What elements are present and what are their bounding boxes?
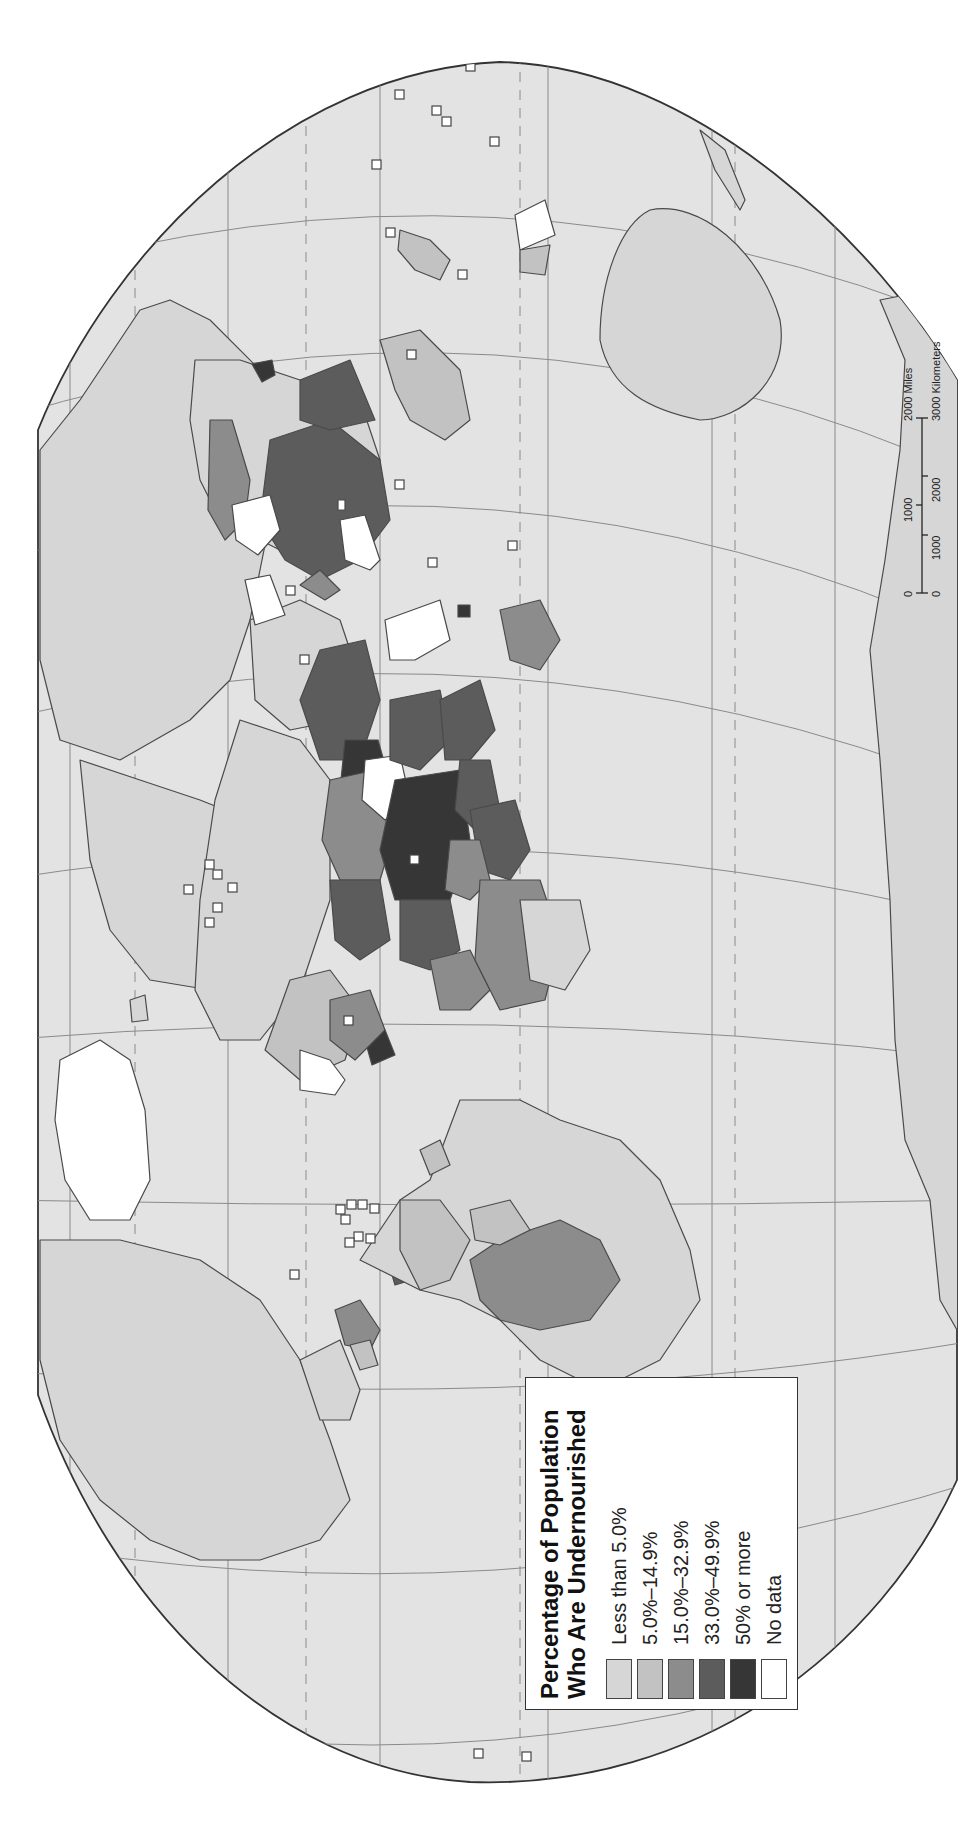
legend-label: 50% or more <box>732 1531 755 1646</box>
scale-miles-tick-1000: 1000 <box>902 498 914 522</box>
region-pacific-islands <box>520 245 550 275</box>
scale-km-tick-0: 0 <box>930 591 942 597</box>
legend-title-line1: Percentage of Population <box>536 1390 563 1699</box>
legend-item: Less than 5.0% <box>604 1390 634 1699</box>
legend-swatch-less-than-5 <box>606 1659 632 1699</box>
legend-label: 5.0%–14.9% <box>639 1532 662 1645</box>
legend-swatch-33-to-49-9 <box>699 1659 725 1699</box>
scale-miles-tick-0: 0 <box>902 591 914 597</box>
scale-miles-label: 2000 Miles <box>902 367 914 421</box>
legend-label: Less than 5.0% <box>608 1507 631 1645</box>
legend-swatch-no-data <box>761 1659 787 1699</box>
legend-swatch-50-or-more <box>730 1659 756 1699</box>
legend-title: Percentage of Population Who Are Underno… <box>536 1390 590 1699</box>
region-iceland <box>130 995 148 1022</box>
legend-item: 50% or more <box>728 1390 758 1699</box>
legend-swatch-15-to-32-9 <box>668 1659 694 1699</box>
legend-swatch-5-to-14-9 <box>637 1659 663 1699</box>
legend: Percentage of Population Who Are Underno… <box>525 1377 798 1710</box>
legend-item: 15.0%–32.9% <box>666 1390 696 1699</box>
region-comoros <box>458 605 470 617</box>
legend-item: 5.0%–14.9% <box>635 1390 665 1699</box>
scale-km-tick-2000: 2000 <box>930 478 942 502</box>
legend-item: 33.0%–49.9% <box>697 1390 727 1699</box>
legend-label: No data <box>763 1575 786 1645</box>
scale-km-tick-1000: 1000 <box>930 536 942 560</box>
legend-label: 33.0%–49.9% <box>701 1520 724 1645</box>
scale-km-label: 3000 Kilometers <box>930 341 942 421</box>
legend-title-line2: Who Are Undernourished <box>563 1390 590 1699</box>
legend-label: 15.0%–32.9% <box>670 1520 693 1645</box>
world-map: 0 1000 2000 Miles 0 1000 2000 3000 Kilom… <box>0 0 980 1846</box>
region-bangladesh <box>338 500 345 510</box>
legend-item: No data <box>759 1390 789 1699</box>
